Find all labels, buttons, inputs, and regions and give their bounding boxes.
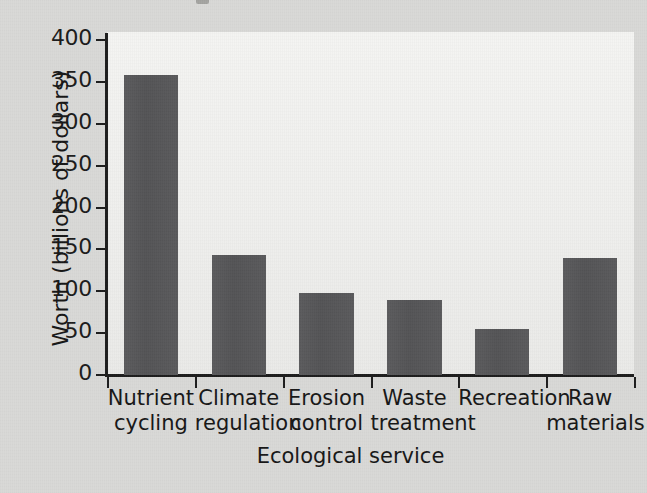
- category-label-line2: regulation: [195, 411, 283, 436]
- category-label-line1: Climate: [195, 386, 283, 411]
- y-axis-tick: [96, 81, 106, 83]
- category-label-line2: treatment: [371, 411, 459, 436]
- x-axis-category-label: Erosioncontrol: [283, 386, 371, 436]
- x-axis-category-label: Rawmaterials: [546, 386, 634, 436]
- x-axis-category-label: Climateregulation: [195, 386, 283, 436]
- y-axis-tick: [96, 374, 106, 376]
- bar: [475, 329, 529, 375]
- category-label-line2: materials: [546, 411, 634, 436]
- category-label-line1: Nutrient: [107, 386, 195, 411]
- x-axis-category-label: Recreation: [458, 386, 546, 411]
- bar: [124, 75, 178, 375]
- figure-canvas: 050100150200250300350400 Nutrientcycling…: [0, 0, 647, 493]
- y-axis-tick: [96, 332, 106, 334]
- y-axis-tick: [96, 248, 106, 250]
- x-axis-tick: [634, 377, 636, 388]
- category-label-line2: cycling: [107, 411, 195, 436]
- y-axis-title: Worth (billions of dollars): [48, 49, 73, 369]
- x-axis-category-label: Nutrientcycling: [107, 386, 195, 436]
- x-axis-category-label: Wastetreatment: [371, 386, 459, 436]
- category-label-line1: Waste: [371, 386, 459, 411]
- cropped-title-descender: [196, 0, 209, 4]
- plot-area: [107, 32, 634, 376]
- category-label-line1: Recreation: [458, 386, 546, 411]
- category-label-line1: Raw: [546, 386, 634, 411]
- bar: [563, 258, 617, 375]
- y-axis-tick: [96, 165, 106, 167]
- bar: [299, 293, 353, 375]
- bar: [212, 255, 266, 375]
- category-label-line2: control: [283, 411, 371, 436]
- x-axis-title: Ecological service: [0, 444, 647, 468]
- y-axis-tick: [96, 290, 106, 292]
- bar: [387, 300, 441, 375]
- x-axis-line: [105, 374, 634, 377]
- y-axis-tick: [96, 39, 106, 41]
- y-axis-tick: [96, 207, 106, 209]
- category-label-line1: Erosion: [283, 386, 371, 411]
- y-axis-tick-label: 400: [32, 25, 92, 50]
- y-axis-tick: [96, 123, 106, 125]
- x-axis-title-text: Ecological service: [203, 444, 445, 468]
- y-axis-line: [105, 33, 108, 376]
